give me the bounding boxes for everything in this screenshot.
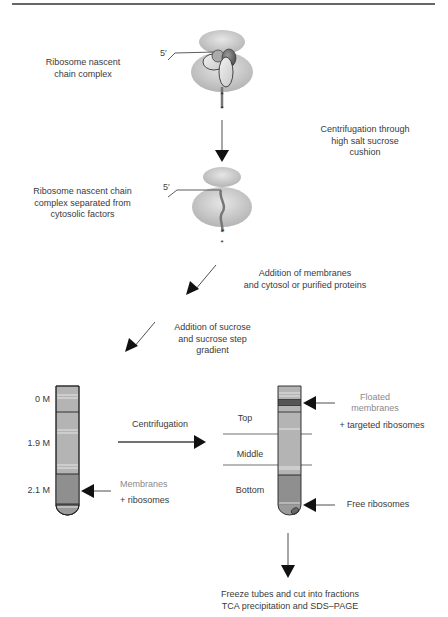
label-centrifugation-cushion: Centrifugation through high salt sucrose… [300, 124, 430, 159]
diagram-canvas: * * * * [0, 0, 448, 617]
label-rnc-separated: Ribosome nascent chain complex separated… [15, 186, 150, 221]
svg-text:*: * [220, 238, 223, 247]
gradient-tube-after [278, 386, 301, 516]
label-targeted-ribosomes: + targeted ribosomes [326, 420, 438, 432]
arrow-diagonal-icon [125, 338, 138, 352]
fraction-middle: Middle [225, 449, 275, 461]
svg-text:*: * [221, 227, 224, 236]
arrow-left-icon [303, 396, 316, 410]
svg-text:*: * [220, 104, 223, 113]
label-membranes: Membranes [120, 479, 168, 491]
arrow-down-icon [215, 150, 229, 162]
ribosome-separated-icon: * * [168, 167, 252, 247]
svg-text:*: * [220, 90, 223, 99]
label-freeze-tubes: Freeze tubes and cut into fractions TCA … [195, 589, 385, 612]
label-add-sucrose: Addition of sucrose and sucrose step gra… [160, 322, 265, 357]
arrow-diagonal-icon [186, 281, 199, 295]
label-add-membranes: Addition of membranes and cytosol or pur… [225, 268, 385, 291]
arrow-right-icon [194, 435, 206, 449]
five-prime-label-2: 5′ [163, 182, 170, 192]
arrow-left-icon [81, 484, 94, 498]
label-centrifugation: Centrifugation [120, 419, 200, 431]
ribosome-nascent-chain-complex-icon: * * [168, 30, 253, 113]
fraction-bottom: Bottom [225, 485, 275, 497]
gradient-tube-before [56, 386, 79, 515]
fraction-top: Top [225, 413, 265, 425]
concentration-1-9m: 1.9 M [14, 438, 50, 450]
arrow-down-icon [281, 565, 295, 578]
concentration-2-1m: 2.1 M [14, 485, 50, 497]
label-free-ribosomes: Free ribosomes [338, 499, 418, 511]
label-plus-ribosomes: + ribosomes [120, 495, 169, 507]
label-floated-membranes: membranes [340, 403, 410, 415]
label-floated: Floated [340, 392, 410, 404]
arrow-left-icon [303, 498, 316, 512]
five-prime-label-1: 5′ [160, 48, 167, 58]
label-rnc: Ribosome nascent chain complex [18, 57, 148, 80]
concentration-0m: 0 M [20, 394, 50, 406]
